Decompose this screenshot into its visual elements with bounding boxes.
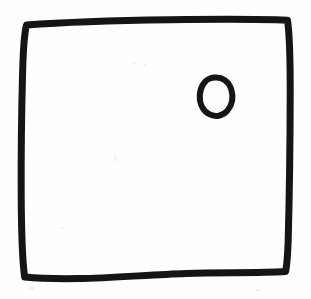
- sketch-drawing: [0, 0, 311, 299]
- sketch-canvas: [0, 0, 311, 299]
- paper-background: [0, 0, 311, 299]
